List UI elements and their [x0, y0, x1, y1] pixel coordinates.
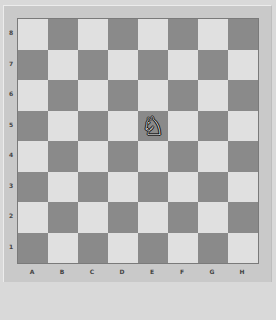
rank-label-1: 1	[7, 243, 15, 250]
square-f3[interactable]	[168, 172, 198, 203]
rank-label-6: 6	[7, 90, 15, 97]
square-e3[interactable]	[138, 172, 168, 203]
file-label-f: F	[167, 268, 197, 275]
white-knight-icon[interactable]: ♘	[141, 113, 164, 139]
square-a5[interactable]	[18, 111, 48, 142]
square-h7[interactable]	[228, 50, 258, 81]
square-d2[interactable]	[108, 202, 138, 233]
file-label-a: A	[17, 268, 47, 275]
square-h5[interactable]	[228, 111, 258, 142]
square-c1[interactable]	[78, 233, 108, 264]
square-d4[interactable]	[108, 141, 138, 172]
square-g7[interactable]	[198, 50, 228, 81]
square-d7[interactable]	[108, 50, 138, 81]
square-e6[interactable]	[138, 80, 168, 111]
square-f6[interactable]	[168, 80, 198, 111]
file-label-h: H	[227, 268, 257, 275]
square-h8[interactable]	[228, 19, 258, 50]
square-a8[interactable]	[18, 19, 48, 50]
square-c7[interactable]	[78, 50, 108, 81]
square-d3[interactable]	[108, 172, 138, 203]
square-a1[interactable]	[18, 233, 48, 264]
square-d6[interactable]	[108, 80, 138, 111]
square-f7[interactable]	[168, 50, 198, 81]
square-d1[interactable]	[108, 233, 138, 264]
square-b3[interactable]	[48, 172, 78, 203]
file-label-g: G	[197, 268, 227, 275]
square-a4[interactable]	[18, 141, 48, 172]
square-e5[interactable]: ♘	[138, 111, 168, 142]
square-f4[interactable]	[168, 141, 198, 172]
square-c4[interactable]	[78, 141, 108, 172]
square-f8[interactable]	[168, 19, 198, 50]
square-g1[interactable]	[198, 233, 228, 264]
square-c8[interactable]	[78, 19, 108, 50]
rank-label-3: 3	[7, 182, 15, 189]
rank-label-7: 7	[7, 60, 15, 67]
square-g5[interactable]	[198, 111, 228, 142]
chess-board[interactable]: ♘	[17, 18, 259, 264]
square-a3[interactable]	[18, 172, 48, 203]
square-e4[interactable]	[138, 141, 168, 172]
file-label-c: C	[77, 268, 107, 275]
square-d5[interactable]	[108, 111, 138, 142]
square-e7[interactable]	[138, 50, 168, 81]
square-c6[interactable]	[78, 80, 108, 111]
square-g8[interactable]	[198, 19, 228, 50]
square-a7[interactable]	[18, 50, 48, 81]
square-h2[interactable]	[228, 202, 258, 233]
square-e8[interactable]	[138, 19, 168, 50]
square-h3[interactable]	[228, 172, 258, 203]
square-a6[interactable]	[18, 80, 48, 111]
square-h1[interactable]	[228, 233, 258, 264]
square-g2[interactable]	[198, 202, 228, 233]
square-f1[interactable]	[168, 233, 198, 264]
file-label-e: E	[137, 268, 167, 275]
square-c5[interactable]	[78, 111, 108, 142]
square-c3[interactable]	[78, 172, 108, 203]
square-b8[interactable]	[48, 19, 78, 50]
square-g3[interactable]	[198, 172, 228, 203]
square-h4[interactable]	[228, 141, 258, 172]
square-e1[interactable]	[138, 233, 168, 264]
file-label-d: D	[107, 268, 137, 275]
square-b4[interactable]	[48, 141, 78, 172]
rank-label-8: 8	[7, 29, 15, 36]
square-e2[interactable]	[138, 202, 168, 233]
square-d8[interactable]	[108, 19, 138, 50]
square-b1[interactable]	[48, 233, 78, 264]
file-label-b: B	[47, 268, 77, 275]
square-h6[interactable]	[228, 80, 258, 111]
square-g6[interactable]	[198, 80, 228, 111]
square-b6[interactable]	[48, 80, 78, 111]
square-g4[interactable]	[198, 141, 228, 172]
rank-label-5: 5	[7, 121, 15, 128]
square-b7[interactable]	[48, 50, 78, 81]
square-a2[interactable]	[18, 202, 48, 233]
square-f5[interactable]	[168, 111, 198, 142]
square-b5[interactable]	[48, 111, 78, 142]
rank-label-4: 4	[7, 151, 15, 158]
square-c2[interactable]	[78, 202, 108, 233]
square-b2[interactable]	[48, 202, 78, 233]
square-f2[interactable]	[168, 202, 198, 233]
rank-label-2: 2	[7, 212, 15, 219]
